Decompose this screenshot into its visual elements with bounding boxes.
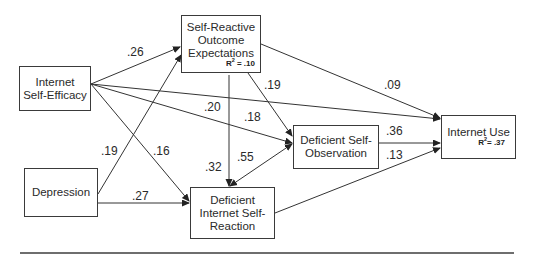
coef-ise-disr: .16 — [153, 144, 170, 158]
bottom-rule — [20, 252, 514, 254]
coef-disr-iu: .13 — [386, 148, 403, 162]
node-label: Depression — [32, 186, 90, 199]
coef-disr-dso: .55 — [237, 150, 254, 164]
edge-ise-disr — [91, 84, 189, 201]
node-label: Deficient Internet Self- Reaction — [200, 194, 266, 233]
coef-ise-iu: .20 — [204, 100, 221, 114]
r-squared-label: R2 = .10 — [226, 54, 255, 70]
node-self-reactive-outcome-expectations: Self-Reactive Outcome Expectations R2 = … — [181, 15, 261, 73]
node-deficient-self-observation: Deficient Self- Observation — [293, 125, 379, 169]
coef-sroe-disr: .32 — [205, 160, 222, 174]
node-label: Deficient Self- Observation — [300, 134, 372, 160]
coef-sroe-iu: .09 — [384, 78, 401, 92]
node-depression: Depression — [24, 168, 98, 217]
node-internet-use: Internet Use R2= .37 — [441, 115, 516, 159]
edge-sroe-iu — [261, 44, 440, 118]
coef-dep-disr: .27 — [132, 189, 149, 203]
coef-sroe-dso: .19 — [264, 78, 281, 92]
path-diagram: Internet Self-Efficacy Self-Reactive Out… — [0, 0, 534, 257]
node-label: Internet Self-Efficacy — [23, 76, 87, 102]
node-internet-self-efficacy: Internet Self-Efficacy — [19, 66, 91, 111]
r-squared-label: R2= .37 — [478, 133, 505, 149]
coef-ise-sroe: .26 — [127, 45, 144, 59]
coef-ise-dso: .18 — [244, 110, 261, 124]
coef-dso-iu: .36 — [386, 124, 403, 138]
node-deficient-internet-self-reaction: Deficient Internet Self- Reaction — [190, 187, 275, 239]
coef-dep-sroe: .19 — [101, 144, 118, 158]
